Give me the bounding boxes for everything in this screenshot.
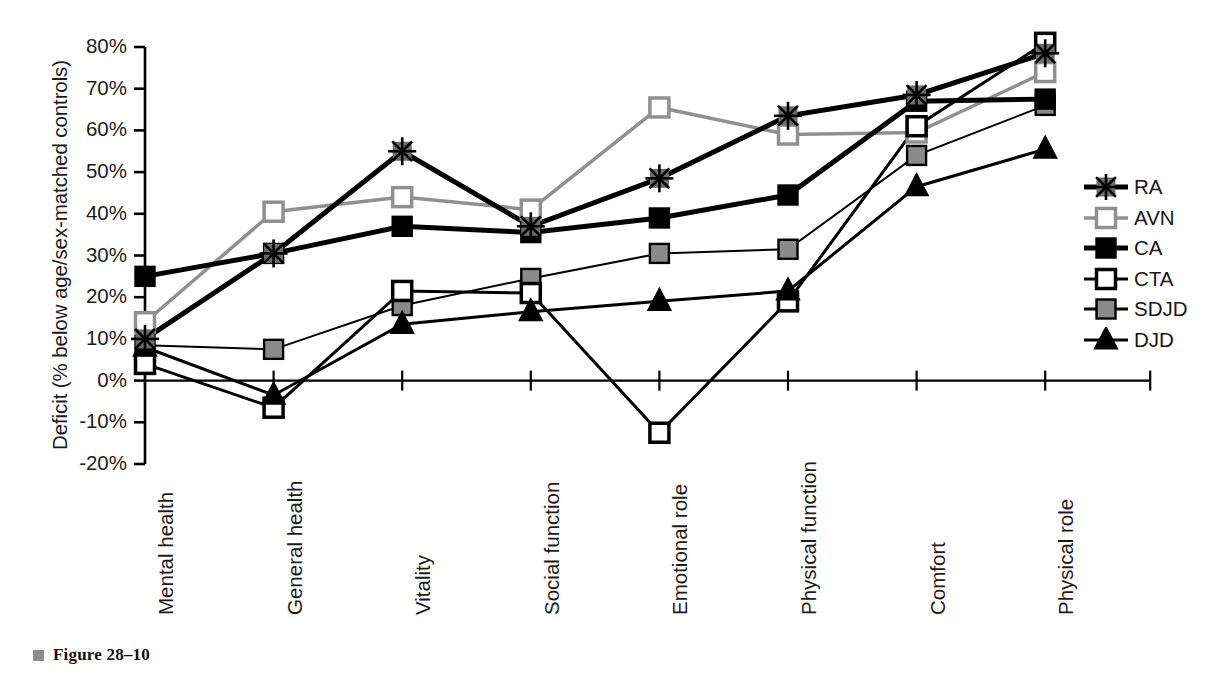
legend-marker-ra-icon [1083, 174, 1129, 200]
data-point-cta-4 [650, 423, 669, 442]
x-tick-label-social-function: Social function [540, 482, 564, 615]
chart-legend: RAAVNCACTASDJDDJD [1083, 172, 1223, 355]
data-point-sdjd-6 [907, 146, 926, 165]
y-tick-label: 50% [0, 159, 127, 183]
data-point-ca-7 [1036, 90, 1055, 109]
x-tick-label-comfort: Comfort [926, 542, 950, 615]
chart-axes [134, 47, 1150, 464]
data-point-ra-3 [517, 212, 545, 240]
data-point-ca-2 [393, 217, 412, 236]
legend-item-ca[interactable]: CA [1083, 233, 1223, 264]
legend-label-djd: DJD [1134, 330, 1174, 351]
x-tick-label-physical-function: Physical function [797, 461, 821, 615]
data-point-ca-5 [779, 186, 798, 205]
legend-marker-sdjd-icon [1083, 296, 1129, 322]
y-tick-label: -10% [0, 409, 127, 433]
x-tick-label-emotional-role: Emotional role [668, 484, 692, 615]
figure-caption: Figure 28–10 [33, 645, 150, 665]
data-point-cta-0 [136, 354, 155, 373]
legend-item-djd[interactable]: DJD [1083, 325, 1223, 356]
legend-label-sdjd: SDJD [1134, 299, 1188, 320]
data-point-cta-6 [907, 117, 926, 136]
y-tick-label: 0% [0, 368, 127, 392]
data-point-ra-7 [1031, 39, 1059, 67]
legend-symbol [1097, 239, 1116, 258]
legend-symbol [1097, 269, 1116, 288]
data-point-avn-1 [264, 202, 283, 221]
data-point-ra-1 [260, 239, 288, 267]
data-point-ra-6 [903, 81, 931, 109]
y-tick-label: 40% [0, 201, 127, 225]
data-point-ra-0 [131, 325, 159, 353]
y-tick-label: 30% [0, 243, 127, 267]
y-tick-label: 60% [0, 117, 127, 141]
caption-bullet-icon [33, 650, 44, 661]
legend-marker-avn-icon [1083, 205, 1129, 231]
data-point-avn-4 [650, 98, 669, 117]
y-tick-label: 20% [0, 284, 127, 308]
legend-item-avn[interactable]: AVN [1083, 203, 1223, 234]
legend-marker-djd-icon [1083, 327, 1129, 353]
data-point-djd-7 [1034, 136, 1057, 158]
y-tick-label: 70% [0, 76, 127, 100]
data-point-sdjd-5 [779, 240, 798, 259]
x-tick-label-general-health: General health [283, 481, 307, 615]
legend-label-cta: CTA [1134, 269, 1173, 290]
legend-label-avn: AVN [1134, 208, 1175, 229]
y-tick-label: 10% [0, 326, 127, 350]
legend-label-ra: RA [1134, 177, 1162, 198]
legend-item-cta[interactable]: CTA [1083, 264, 1223, 295]
x-tick-label-mental-health: Mental health [154, 492, 178, 615]
y-tick-label: 80% [0, 34, 127, 58]
y-tick-label: -20% [0, 451, 127, 475]
data-point-sdjd-1 [264, 340, 283, 359]
data-point-cta-2 [393, 281, 412, 300]
legend-symbol [1097, 300, 1116, 319]
legend-symbol [1097, 208, 1116, 227]
data-point-ra-4 [645, 164, 673, 192]
data-point-ra-2 [388, 137, 416, 165]
line-chart-plot [0, 0, 1226, 681]
data-point-ra-5 [774, 102, 802, 130]
data-point-ca-0 [136, 267, 155, 286]
legend-label-ca: CA [1134, 238, 1162, 259]
legend-marker-cta-icon [1083, 266, 1129, 292]
legend-item-sdjd[interactable]: SDJD [1083, 294, 1223, 325]
data-point-ca-4 [650, 208, 669, 227]
data-point-sdjd-4 [650, 244, 669, 263]
data-point-avn-2 [393, 188, 412, 207]
legend-item-ra[interactable]: RA [1083, 172, 1223, 203]
x-tick-label-vitality: Vitality [411, 555, 435, 615]
figure-container: Deficit (% below age/sex-matched control… [0, 0, 1226, 681]
legend-symbol [1095, 327, 1118, 349]
x-tick-label-physical-role: Physical role [1054, 499, 1078, 615]
legend-marker-ca-icon [1083, 235, 1129, 261]
legend-symbol [1092, 174, 1120, 200]
caption-text: Figure 28–10 [53, 645, 150, 665]
